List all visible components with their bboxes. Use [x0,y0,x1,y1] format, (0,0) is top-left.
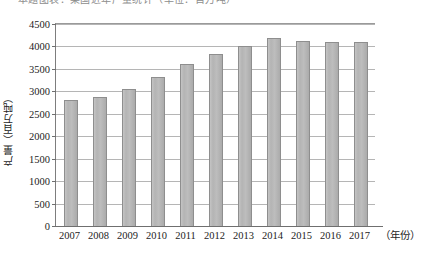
y-axis-tick-label: 3000 [29,86,50,97]
bar-2013 [238,46,252,226]
y-axis-tick [52,24,56,25]
y-axis-tick-label: 2000 [29,131,50,142]
y-axis-tick-label: 0 [45,221,50,232]
y-axis-tick [52,69,56,70]
bar-2015 [296,41,310,226]
y-axis-tick-label: 4000 [29,41,50,52]
gridline [56,24,375,25]
y-axis-tick [52,46,56,47]
x-axis-tick-label-2016: 2016 [320,229,341,242]
x-axis-line [56,226,383,227]
y-axis-tick-label: 1000 [29,176,50,187]
x-axis-tick-label-2011: 2011 [175,229,196,242]
bar-2009 [122,89,136,226]
y-axis-tick [52,181,56,182]
x-axis-tick-label-2008: 2008 [88,229,109,242]
x-axis-tick-label-2012: 2012 [204,229,225,242]
x-axis-tick-label-2010: 2010 [146,229,167,242]
y-axis-tick [52,226,56,227]
x-axis-tick-label-2017: 2017 [349,229,370,242]
x-axis-tick-label-2007: 2007 [59,229,80,242]
cropped-caption-text: 本题图表：某国近年产量统计（单位：百万吨） [18,0,318,5]
bar-2007 [64,100,78,226]
bar-2014 [267,38,281,226]
y-axis-tick [52,136,56,137]
y-axis-tick [52,204,56,205]
bar-2017 [354,42,368,226]
y-axis-tick [52,91,56,92]
y-axis-tick-label: 2500 [29,108,50,119]
plot-area: 050010001500200025003000350040004500 [55,23,375,226]
y-axis-title: 产量（百万吨） [3,92,15,166]
bar-chart-figure: 本题图表：某国近年产量统计（单位：百万吨） 产量（百万吨） 0500100015… [0,0,423,258]
y-axis-tick-label: 1500 [29,153,50,164]
bar-2011 [180,64,194,226]
y-axis-tick [52,159,56,160]
y-axis-tick-label: 3500 [29,63,50,74]
x-axis-tick-label-2009: 2009 [117,229,138,242]
bar-2016 [325,42,339,226]
x-axis-tick-label-2015: 2015 [291,229,312,242]
y-axis-tick-label: 500 [34,198,50,209]
x-axis-tick-label-2014: 2014 [262,229,283,242]
y-axis-tick [52,114,56,115]
bar-2012 [209,54,223,226]
bar-2008 [93,97,107,226]
x-axis-title: （年份） [380,229,420,242]
x-axis-tick-label-2013: 2013 [233,229,254,242]
x-axis-labels: （年份） 20072008200920102011201220132014201… [55,229,415,245]
y-axis-tick-label: 4500 [29,19,50,30]
bar-2010 [151,77,165,226]
